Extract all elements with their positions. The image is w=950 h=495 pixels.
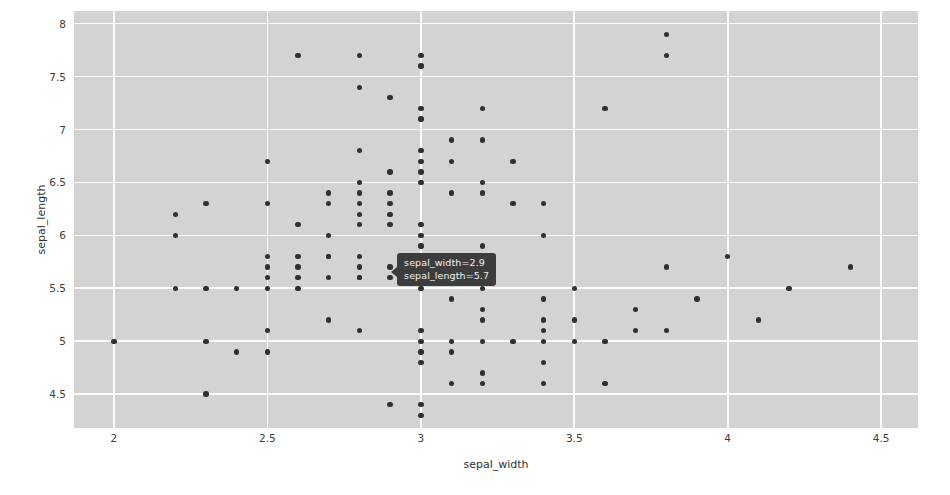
plot-area[interactable] — [74, 11, 918, 428]
scatter-point[interactable] — [387, 222, 392, 227]
scatter-point[interactable] — [234, 349, 239, 354]
scatter-point[interactable] — [480, 190, 485, 195]
scatter-point[interactable] — [295, 222, 300, 227]
scatter-point[interactable] — [326, 317, 331, 322]
scatter-point[interactable] — [480, 317, 485, 322]
scatter-point[interactable] — [602, 339, 607, 344]
scatter-point[interactable] — [449, 349, 454, 354]
scatter-point[interactable] — [387, 169, 392, 174]
scatter-point[interactable] — [418, 159, 423, 164]
scatter-point[interactable] — [664, 328, 669, 333]
scatter-point[interactable] — [664, 32, 669, 37]
scatter-point[interactable] — [449, 339, 454, 344]
scatter-point[interactable] — [602, 106, 607, 111]
scatter-point[interactable] — [541, 328, 546, 333]
scatter-point[interactable] — [387, 212, 392, 217]
scatter-point[interactable] — [480, 243, 485, 248]
scatter-point[interactable] — [480, 339, 485, 344]
scatter-point[interactable] — [848, 264, 853, 269]
scatter-point[interactable] — [326, 254, 331, 259]
scatter-point[interactable] — [418, 63, 423, 68]
scatter-point[interactable] — [295, 275, 300, 280]
scatter-point[interactable] — [418, 339, 423, 344]
scatter-point[interactable] — [326, 190, 331, 195]
scatter-point[interactable] — [510, 159, 515, 164]
scatter-point[interactable] — [572, 317, 577, 322]
scatter-point[interactable] — [357, 328, 362, 333]
scatter-point[interactable] — [326, 233, 331, 238]
scatter-point[interactable] — [357, 180, 362, 185]
scatter-point[interactable] — [572, 339, 577, 344]
scatter-point[interactable] — [480, 137, 485, 142]
scatter-point[interactable] — [449, 381, 454, 386]
scatter-point[interactable] — [265, 159, 270, 164]
scatter-point[interactable] — [265, 201, 270, 206]
scatter-point[interactable] — [387, 402, 392, 407]
scatter-point[interactable] — [203, 286, 208, 291]
scatter-point[interactable] — [357, 148, 362, 153]
scatter-point[interactable] — [418, 360, 423, 365]
scatter-point[interactable] — [387, 190, 392, 195]
scatter-point[interactable] — [480, 286, 485, 291]
scatter-point[interactable] — [418, 53, 423, 58]
scatter-point[interactable] — [357, 275, 362, 280]
scatter-point[interactable] — [418, 148, 423, 153]
scatter-point[interactable] — [602, 381, 607, 386]
scatter-point[interactable] — [786, 286, 791, 291]
scatter-point[interactable] — [541, 317, 546, 322]
scatter-point[interactable] — [480, 106, 485, 111]
scatter-point[interactable] — [173, 286, 178, 291]
scatter-point[interactable] — [480, 370, 485, 375]
scatter-point[interactable] — [541, 201, 546, 206]
scatter-point[interactable] — [449, 159, 454, 164]
scatter-point[interactable] — [265, 264, 270, 269]
scatter-point[interactable] — [357, 201, 362, 206]
scatter-point[interactable] — [694, 296, 699, 301]
scatter-point[interactable] — [418, 116, 423, 121]
scatter-point[interactable] — [357, 264, 362, 269]
scatter-point[interactable] — [664, 264, 669, 269]
scatter-point[interactable] — [265, 254, 270, 259]
scatter-point[interactable] — [633, 328, 638, 333]
scatter-point[interactable] — [418, 286, 423, 291]
scatter-point[interactable] — [418, 243, 423, 248]
scatter-point[interactable] — [357, 212, 362, 217]
scatter-point[interactable] — [633, 307, 638, 312]
scatter-point[interactable] — [265, 275, 270, 280]
scatter-point[interactable] — [449, 296, 454, 301]
scatter-point[interactable] — [418, 402, 423, 407]
scatter-point[interactable] — [295, 254, 300, 259]
scatter-point[interactable] — [541, 339, 546, 344]
scatter-point[interactable] — [756, 317, 761, 322]
scatter-point[interactable] — [357, 254, 362, 259]
scatter-point[interactable] — [418, 222, 423, 227]
scatter-point[interactable] — [541, 233, 546, 238]
scatter-point[interactable] — [449, 190, 454, 195]
scatter-point[interactable] — [510, 339, 515, 344]
scatter-point[interactable] — [111, 339, 116, 344]
scatter-point[interactable] — [295, 53, 300, 58]
scatter-point[interactable] — [234, 286, 239, 291]
scatter-point[interactable] — [387, 95, 392, 100]
scatter-point[interactable] — [418, 233, 423, 238]
scatter-point[interactable] — [357, 53, 362, 58]
scatter-point[interactable] — [449, 137, 454, 142]
scatter-point[interactable] — [480, 307, 485, 312]
scatter-point[interactable] — [265, 286, 270, 291]
scatter-point[interactable] — [418, 349, 423, 354]
scatter-point[interactable] — [725, 254, 730, 259]
scatter-point[interactable] — [480, 381, 485, 386]
scatter-point[interactable] — [357, 190, 362, 195]
scatter-point[interactable] — [203, 391, 208, 396]
scatter-point[interactable] — [357, 222, 362, 227]
scatter-point[interactable] — [418, 169, 423, 174]
scatter-point[interactable] — [173, 212, 178, 217]
scatter-point[interactable] — [418, 413, 423, 418]
scatter-point[interactable] — [203, 339, 208, 344]
scatter-point[interactable] — [357, 85, 362, 90]
scatter-point[interactable] — [480, 180, 485, 185]
scatter-point[interactable] — [326, 201, 331, 206]
scatter-point[interactable] — [265, 328, 270, 333]
scatter-point[interactable] — [510, 201, 515, 206]
scatter-point[interactable] — [173, 233, 178, 238]
